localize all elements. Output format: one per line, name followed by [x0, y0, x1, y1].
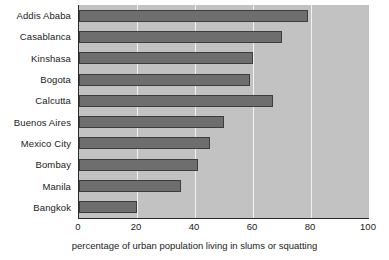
- bar-bogota: [79, 74, 250, 86]
- bar-row: [79, 197, 369, 218]
- x-tick-label-40: 40: [189, 221, 200, 232]
- y-tick-label-calcutta: Calcutta: [0, 90, 76, 111]
- bar-row: [79, 111, 369, 132]
- bar-row: [79, 154, 369, 175]
- bar-row: [79, 90, 369, 111]
- bar-bombay: [79, 159, 198, 171]
- bar-mexico-city: [79, 137, 210, 149]
- bar-row: [79, 133, 369, 154]
- bar-bangkok: [79, 201, 137, 213]
- y-tick-label-kinshasa: Kinshasa: [0, 48, 76, 69]
- y-tick-label-bangkok: Bangkok: [0, 197, 76, 218]
- bar-buenos-aires: [79, 116, 224, 128]
- bar-row: [79, 175, 369, 196]
- x-tick-label-20: 20: [131, 221, 142, 232]
- x-axis-tick-labels: 020406080100: [78, 221, 368, 235]
- bar-row: [79, 5, 369, 26]
- bar-casablanca: [79, 31, 282, 43]
- bar-row: [79, 48, 369, 69]
- y-tick-label-bombay: Bombay: [0, 154, 76, 175]
- y-tick-label-bogota: Bogota: [0, 69, 76, 90]
- bars-layer: [79, 5, 369, 218]
- x-tick-label-60: 60: [247, 221, 258, 232]
- bar-row: [79, 69, 369, 90]
- y-tick-label-casablanca: Casablanca: [0, 26, 76, 47]
- y-axis-category-labels: Addis Ababa Casablanca Kinshasa Bogota C…: [0, 5, 76, 218]
- y-tick-label-mexico-city: Mexico City: [0, 133, 76, 154]
- y-tick-label-addis-ababa: Addis Ababa: [0, 5, 76, 26]
- x-tick-label-100: 100: [360, 221, 376, 232]
- plot-area: [78, 5, 369, 219]
- bar-manila: [79, 180, 181, 192]
- bar-calcutta: [79, 95, 273, 107]
- x-tick-label-0: 0: [75, 221, 80, 232]
- bar-chart-figure: Addis Ababa Casablanca Kinshasa Bogota C…: [0, 0, 389, 260]
- bar-addis-ababa: [79, 10, 308, 22]
- y-tick-label-manila: Manila: [0, 175, 76, 196]
- bar-kinshasa: [79, 52, 253, 64]
- x-tick-label-80: 80: [305, 221, 316, 232]
- y-tick-label-buenos-aires: Buenos Aires: [0, 111, 76, 132]
- bar-row: [79, 26, 369, 47]
- x-axis-title: percentage of urban population living in…: [0, 240, 389, 251]
